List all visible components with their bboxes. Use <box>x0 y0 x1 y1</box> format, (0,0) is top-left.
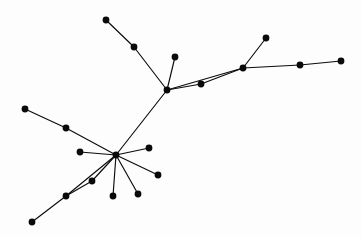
graph-node[interactable] <box>77 149 84 156</box>
graph-node[interactable] <box>110 193 117 200</box>
graph-node[interactable] <box>146 145 153 152</box>
graph-node[interactable] <box>198 81 205 88</box>
figure-background <box>0 0 362 237</box>
graph-canvas <box>0 0 362 237</box>
graph-node[interactable] <box>263 35 270 42</box>
graph-node[interactable] <box>89 178 96 185</box>
graph-node[interactable] <box>29 219 36 226</box>
graph-node[interactable] <box>103 17 110 24</box>
graph-node[interactable] <box>135 191 142 198</box>
graph-node[interactable] <box>297 62 304 69</box>
graph-node[interactable] <box>63 125 70 132</box>
graph-node[interactable] <box>131 44 138 51</box>
graph-node[interactable] <box>155 172 162 179</box>
graph-node[interactable] <box>63 193 70 200</box>
graph-node[interactable] <box>338 58 345 65</box>
graph-node[interactable] <box>22 106 29 113</box>
graph-figure <box>0 0 362 237</box>
graph-node[interactable] <box>172 54 179 61</box>
graph-node[interactable] <box>240 65 247 72</box>
graph-node[interactable] <box>164 87 171 94</box>
graph-node[interactable] <box>113 152 120 159</box>
